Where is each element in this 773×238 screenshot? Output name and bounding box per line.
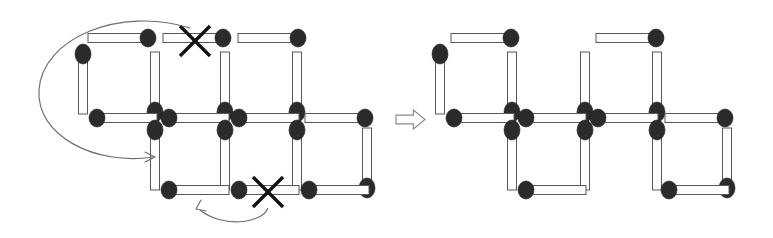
- matchstick: [518, 109, 586, 127]
- matchstick: [147, 52, 163, 122]
- matchstick: [518, 181, 586, 199]
- matchstick: [504, 120, 520, 190]
- matchstick-head: [518, 109, 534, 127]
- matchstick-head: [215, 29, 231, 47]
- matchstick-head: [717, 109, 733, 127]
- matchstick-head: [661, 181, 677, 199]
- matchstick: [305, 109, 373, 127]
- matchstick-head: [289, 120, 305, 140]
- arrow-right-icon: [396, 110, 425, 129]
- matchstick-head: [648, 29, 664, 47]
- matchstick: [75, 44, 91, 114]
- matchstick-head: [301, 181, 317, 199]
- matchstick-head: [147, 120, 163, 140]
- matchstick: [590, 109, 658, 127]
- matchstick-head: [161, 181, 177, 199]
- matchstick: [504, 52, 520, 122]
- right-figure-solved-arrangement: [432, 29, 735, 199]
- matchstick-head: [649, 120, 665, 140]
- matchstick: [432, 44, 448, 114]
- matchstick: [161, 181, 229, 199]
- matchstick-head: [357, 109, 373, 127]
- matchstick-head: [217, 120, 233, 140]
- matchstick-head: [75, 44, 91, 64]
- left-figure-initial-arrangement: [75, 29, 375, 199]
- matchstick: [289, 120, 305, 190]
- matchstick: [649, 120, 665, 190]
- matchstick: [217, 52, 233, 122]
- matchstick-head: [140, 29, 156, 47]
- matchstick-head: [231, 109, 247, 127]
- matchstick: [289, 52, 305, 122]
- matchstick-head: [590, 109, 606, 127]
- matchstick-head: [161, 109, 177, 127]
- matchstick-head: [503, 29, 519, 47]
- matchstick-canvas: [0, 0, 773, 238]
- matchstick: [649, 52, 665, 122]
- matchstick: [88, 29, 156, 47]
- matchstick: [665, 109, 733, 127]
- matchstick: [577, 120, 593, 190]
- matchstick: [147, 120, 163, 190]
- matchstick-head: [89, 109, 105, 127]
- matchstick: [577, 52, 593, 122]
- matchstick-head: [504, 120, 520, 140]
- transform-arrow-right-icon: [396, 110, 425, 129]
- matchstick-head: [290, 29, 306, 47]
- matchstick: [301, 181, 369, 199]
- matchstick: [661, 181, 729, 199]
- matchstick-head: [446, 109, 462, 127]
- matchstick: [451, 29, 519, 47]
- matchstick: [596, 29, 664, 47]
- matchstick-head: [432, 44, 448, 64]
- matchstick: [217, 120, 233, 190]
- matchstick-head: [231, 181, 247, 199]
- matchstick-puzzle-figure: [0, 0, 773, 238]
- matchstick-head: [577, 120, 593, 140]
- matchstick-head: [518, 181, 534, 199]
- matchstick: [238, 29, 306, 47]
